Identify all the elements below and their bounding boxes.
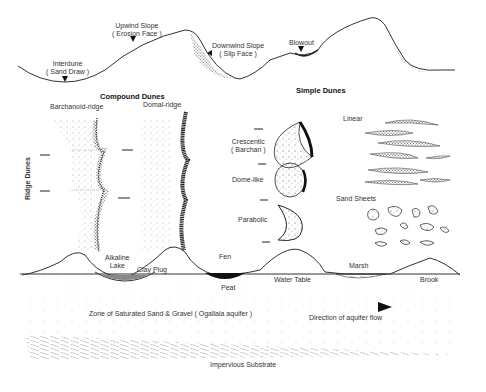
ridge-dunes-label: Ridge Dunes xyxy=(24,157,32,200)
crescentic-text: Crescentic xyxy=(231,138,266,146)
dome-like-label: Dome-like xyxy=(232,176,264,184)
peat-label: Peat xyxy=(221,284,235,292)
upwind-slope-label: Upwind Slope ( Erosion Face ) xyxy=(112,22,162,38)
aquifer-zone-label: Zone of Saturated Sand & Gravel ( Ogalla… xyxy=(89,310,252,318)
crescentic-sub: ( Barchan ) xyxy=(231,146,266,154)
upwind-slope-sub: ( Erosion Face ) xyxy=(112,30,162,38)
linear-label: Linear xyxy=(343,115,362,123)
compound-dunes-drawing xyxy=(40,112,188,252)
downwind-slope-label: Downwind Slope ( Slip Face ) xyxy=(212,42,264,58)
downwind-slope-sub: ( Slip Face ) xyxy=(212,50,264,58)
clay-plug-label: Clay Plug xyxy=(137,266,167,274)
lake-text: Lake xyxy=(105,262,130,270)
aquifer-flow-label: Direction of aquifer flow xyxy=(309,314,382,322)
fen-label: Fen xyxy=(219,253,231,261)
barchanoid-ridge-label: Barchanoid-ridge xyxy=(50,103,103,111)
water-table-label: Water Table xyxy=(274,276,311,284)
marsh-label: Marsh xyxy=(349,262,368,270)
domal-ridge-label: Domal-ridge xyxy=(143,101,181,109)
blowout-label: Blowout xyxy=(289,39,314,47)
upwind-slope-text: Upwind Slope xyxy=(112,22,162,30)
crescentic-label: Crescentic ( Barchan ) xyxy=(231,138,266,154)
brook-label: Brook xyxy=(420,276,438,284)
impervious-substrate-label: Impervious Substrate xyxy=(210,361,276,369)
sand-sheets-label: Sand Sheets xyxy=(336,195,376,203)
parabolic-label: Parabolic xyxy=(238,216,267,224)
cross-section-drawing xyxy=(20,247,460,360)
simple-dunes-drawing xyxy=(254,120,450,246)
compound-dunes-title: Compound Dunes xyxy=(100,93,165,101)
interdune-sub: ( Sand Draw ) xyxy=(46,68,89,76)
interdune-text: Interdune xyxy=(46,60,89,68)
alkaline-lake-label: Alkaline Lake xyxy=(105,254,130,270)
alkaline-text: Alkaline xyxy=(105,254,130,262)
downwind-slope-text: Downwind Slope xyxy=(212,42,264,50)
dune-diagram-drawing xyxy=(0,0,486,392)
interdune-label: Interdune ( Sand Draw ) xyxy=(46,60,89,76)
simple-dunes-title: Simple Dunes xyxy=(296,87,346,95)
